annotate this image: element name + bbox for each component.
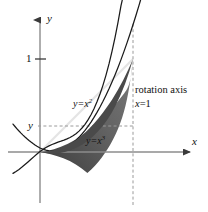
math-figure: y x 1 y y=x2 y=x3 rotation axis x=1 (0, 0, 208, 212)
rotation-axis-annotation: rotation axis (135, 85, 187, 96)
curve-label-sq-exponent: 2 (89, 97, 92, 104)
x-axis-label: x (192, 136, 197, 147)
y-axis-label: y (47, 13, 52, 24)
curve-label-cu-base: y=x (86, 135, 102, 146)
shaded-region-between-curves (40, 59, 133, 173)
y-tick-label-generic: y (28, 120, 33, 131)
rotation-axis-equation-value: =1 (140, 98, 151, 109)
curve-label-sq-base: y=x (73, 98, 89, 109)
curve-label-y-equals-x-cubed: y=x3 (86, 135, 105, 146)
y-tick-label-one: 1 (26, 53, 32, 64)
curve-label-cu-exponent: 3 (102, 134, 105, 141)
curve-label-y-equals-x-squared: y=x2 (73, 98, 92, 109)
rotation-axis-equation: x=1 (135, 99, 151, 110)
figure-canvas (0, 0, 208, 212)
